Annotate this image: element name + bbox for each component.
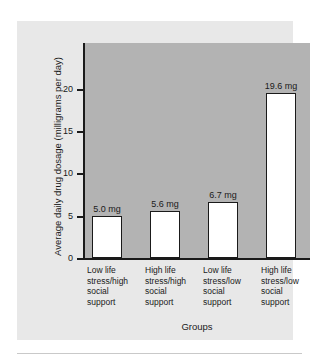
category-line: High life [145,265,201,276]
y-tick-mark-10 [77,173,85,175]
category-line: social [87,286,143,297]
category-line: stress/high [145,276,201,287]
y-tick-mark-20 [77,89,85,91]
bar-value-label-3: 6.7 mg [196,190,250,200]
bar-value-label-4: 19.6 mg [254,81,308,91]
category-label-2: High life stress/high social support [145,265,201,307]
category-line: Low life [87,265,143,276]
category-line: stress/low [261,276,317,287]
category-line: support [203,297,259,308]
category-line: stress/low [203,276,259,287]
x-axis-title: Groups [84,321,310,332]
bar-value-label-2: 5.6 mg [138,199,192,209]
category-line: support [87,297,143,308]
bottom-divider [17,353,302,354]
y-axis-line [83,43,85,260]
category-line: social [261,286,317,297]
figure-panel: 20 15 10 5 0 Average daily drug dosage (… [17,21,293,340]
category-label-3: Low life stress/low social support [203,265,259,307]
category-line: social [203,286,259,297]
category-line: support [145,297,201,308]
category-line: High life [261,265,317,276]
category-label-4: High life stress/low social support [261,265,317,307]
category-line: support [261,297,317,308]
bar-low-stress-low-support [208,202,238,258]
category-line: Low life [203,265,259,276]
x-axis-line [83,258,310,260]
y-axis-title: Average daily drug dosage (milligrams pe… [52,47,63,267]
y-tick-mark-15 [77,131,85,133]
bar-high-stress-low-support [266,93,296,258]
bar-low-stress-high-support [92,216,122,258]
category-line: stress/high [87,276,143,287]
category-line: social [145,286,201,297]
category-label-1: Low life stress/high social support [87,265,143,307]
y-tick-mark-5 [77,216,85,218]
bar-high-stress-high-support [150,211,180,258]
bar-value-label-1: 5.0 mg [80,204,134,214]
y-tick-mark-0 [77,258,85,260]
